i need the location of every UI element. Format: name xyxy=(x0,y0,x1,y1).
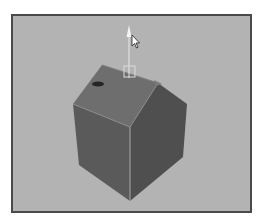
vertex-marker xyxy=(92,82,104,87)
3d-viewport[interactable] xyxy=(11,14,252,213)
arrow-up-icon[interactable] xyxy=(127,25,132,37)
scene-canvas[interactable] xyxy=(13,16,250,211)
move-manipulator[interactable] xyxy=(124,25,135,78)
mouse-pointer-icon xyxy=(132,35,140,48)
house-mesh[interactable] xyxy=(73,65,187,201)
